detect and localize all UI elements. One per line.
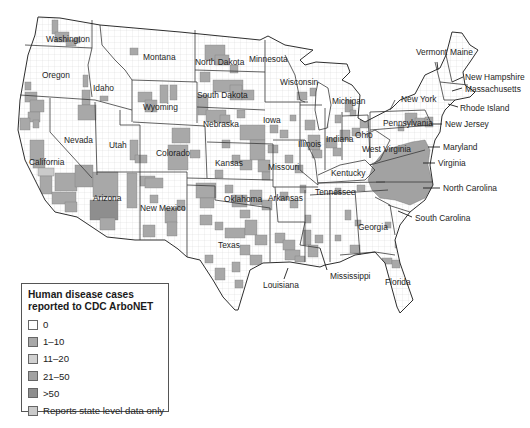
legend-label: Reports state level data only [43, 405, 164, 416]
shaded-county [305, 120, 315, 130]
shaded-county [100, 218, 115, 230]
legend-item-11-20: 11–20 [28, 350, 168, 367]
legend-swatch-state-level [28, 406, 38, 416]
state-label-montana: Montana [143, 52, 176, 62]
state-label-california: California [29, 157, 65, 167]
legend-item-0: 0 [28, 316, 168, 333]
state-label-washington: Washington [46, 34, 90, 44]
state-label-tennessee: Tennessee [315, 187, 356, 197]
shaded-county [190, 150, 200, 158]
shaded-county [232, 262, 240, 272]
state-label-massachusetts: Massachusetts [465, 84, 521, 94]
legend-item-21-50: 21–50 [28, 368, 168, 385]
state-label-colorado: Colorado [156, 148, 190, 158]
state-label-oklahoma: Oklahoma [224, 194, 263, 204]
shaded-county [222, 140, 230, 148]
shaded-county [30, 100, 44, 112]
legend-title-line1: Human disease cases [28, 289, 168, 301]
state-label-kansas: Kansas [215, 158, 243, 168]
shaded-county [200, 215, 212, 225]
state-label-idaho: Idaho [93, 83, 114, 93]
state-label-new-hampshire: New Hampshire [465, 72, 525, 82]
state-label-kentucky: Kentucky [331, 168, 366, 178]
shaded-county [290, 115, 296, 121]
state-label-texas: Texas [218, 240, 240, 250]
shaded-county [237, 110, 245, 118]
legend-label: 1–10 [43, 336, 64, 347]
state-label-ohio: Ohio [355, 130, 373, 140]
state-label-florida: Florida [385, 277, 411, 287]
state-label-north-dakota: North Dakota [195, 57, 245, 67]
shaded-county [225, 228, 245, 238]
legend-item-1-10: 1–10 [28, 333, 168, 350]
shaded-county [215, 268, 225, 280]
shaded-county [235, 280, 243, 288]
legend-label: 21–50 [43, 371, 70, 382]
shaded-county [90, 200, 118, 220]
shaded-county [83, 75, 88, 87]
shaded-county [310, 88, 316, 96]
shaded-county [143, 225, 155, 237]
legend-label: 11–20 [43, 353, 69, 364]
shaded-county [335, 115, 341, 123]
state-label-wisconsin: Wisconsin [280, 77, 319, 87]
state-label-virginia: Virginia [438, 158, 466, 168]
legend-title: Human disease cases reported to CDC Arbo… [28, 289, 168, 313]
shaded-county [160, 85, 168, 103]
shaded-county [255, 235, 267, 245]
state-label-wyoming: Wyoming [143, 102, 178, 112]
state-label-michigan: Michigan [332, 96, 366, 106]
shaded-county [215, 222, 223, 230]
legend-swatch-11-20 [28, 354, 38, 364]
shaded-county [145, 178, 163, 188]
shaded-county [100, 96, 108, 101]
shaded-county [295, 256, 305, 262]
shaded-county [127, 173, 137, 208]
state-label-mississippi: Mississippi [330, 271, 371, 281]
state-label-arkansas: Arkansas [268, 193, 303, 203]
shaded-county [167, 222, 177, 236]
shaded-county [82, 90, 90, 105]
state-label-georgia: Georgia [358, 222, 388, 232]
shaded-county [262, 172, 270, 180]
state-label-new-mexico: New Mexico [140, 203, 186, 213]
legend-item-over-50: >50 [28, 385, 168, 402]
shaded-county [172, 128, 190, 143]
shaded-county [205, 255, 213, 263]
shaded-county [55, 173, 77, 191]
legend-swatch-0 [28, 320, 38, 330]
legend-label: >50 [43, 388, 59, 399]
state-label-south-dakota: South Dakota [197, 90, 248, 100]
shaded-county [25, 82, 31, 90]
shaded-county [78, 105, 96, 120]
legend-label: 0 [43, 319, 48, 330]
state-label-maryland: Maryland [443, 142, 478, 152]
state-label-pennsylvania: Pennsylvania [383, 118, 433, 128]
shaded-county [240, 125, 265, 140]
state-label-maine: Maine [450, 47, 473, 57]
shaded-county [200, 198, 214, 208]
state-label-oregon: Oregon [42, 70, 70, 80]
shaded-county [345, 210, 351, 220]
legend-swatch-21-50 [28, 371, 38, 381]
shaded-county [303, 230, 311, 245]
shaded-county [245, 220, 257, 235]
state-label-iowa: Iowa [263, 115, 281, 125]
state-label-arizona: Arizona [93, 193, 122, 203]
state-label-nebraska: Nebraska [203, 119, 239, 129]
shaded-county [315, 235, 323, 243]
shaded-county [283, 240, 295, 250]
state-label-vermont: Vermont [416, 47, 448, 57]
legend-title-line2: reported to CDC ArboNET [28, 301, 168, 313]
shaded-county [280, 130, 288, 138]
legend-item-state-level: Reports state level data only [28, 402, 168, 419]
state-label-nevada: Nevada [64, 135, 93, 145]
legend: Human disease cases reported to CDC Arbo… [21, 283, 169, 412]
shaded-county [130, 48, 138, 55]
state-label-louisiana: Louisiana [263, 280, 299, 290]
state-label-indiana: Indiana [326, 134, 354, 144]
shaded-county [20, 118, 30, 130]
shaded-county [200, 72, 210, 82]
shaded-county [350, 245, 360, 253]
legend-swatch-over-50 [28, 388, 38, 398]
